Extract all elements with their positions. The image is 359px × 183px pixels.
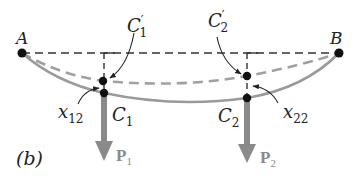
leader-c1-prime <box>110 33 134 78</box>
label-a: A <box>14 28 28 48</box>
label-p1: P1 <box>116 146 132 167</box>
label-c2: C2 <box>218 105 239 130</box>
load-arrow-p2 <box>238 98 256 163</box>
point-a <box>18 49 27 58</box>
label-c1: C1 <box>112 104 133 129</box>
label-p2: P2 <box>260 148 276 169</box>
label-x22: x22 <box>283 101 308 126</box>
point-c2 <box>243 94 251 102</box>
point-c1-prime <box>99 77 107 85</box>
point-c1 <box>100 89 108 97</box>
label-c2-prime: C′2 <box>208 9 228 35</box>
deflected-curve-dashed <box>22 53 339 84</box>
point-b <box>335 49 344 58</box>
panel-label: (b) <box>16 147 43 169</box>
label-c1-prime: C′1 <box>127 14 147 40</box>
label-x12: x12 <box>58 101 83 126</box>
label-b: B <box>329 28 343 48</box>
leader-c2-prime <box>217 37 241 74</box>
load-arrow-p1 <box>95 93 113 161</box>
beam-deflection-diagram: A B C′1 C′2 C1 C2 x12 x22 P1 P2 (b) <box>0 0 359 183</box>
point-c2-prime <box>243 72 251 80</box>
deflected-curve-solid <box>22 53 339 102</box>
